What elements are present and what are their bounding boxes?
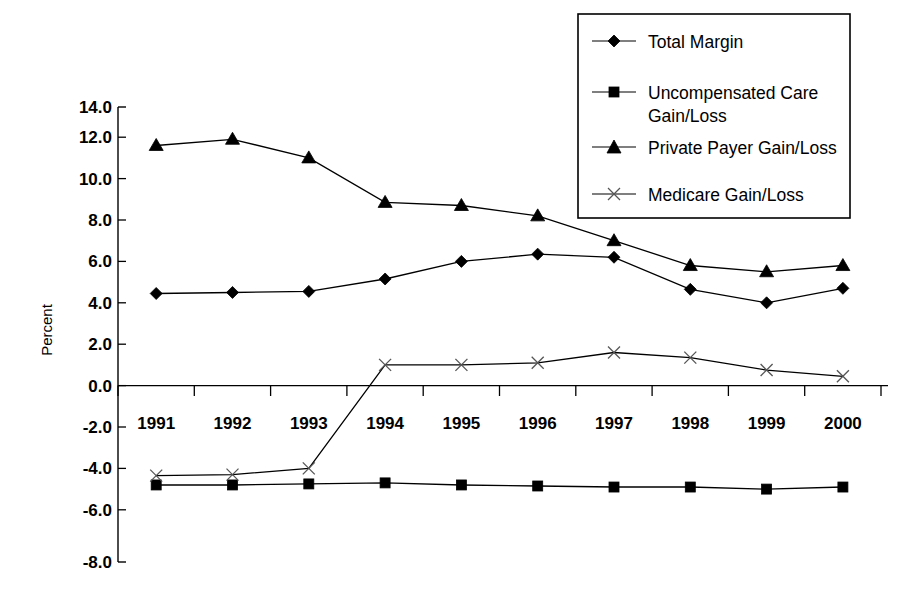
y-axis-tick-labels: 14.0 12.0 10.0 8.0 6.0 4.0 2.0 0.0 -2.0 … bbox=[79, 98, 112, 572]
legend-entry-medicare[interactable]: Medicare Gain/Loss bbox=[592, 185, 804, 205]
square-marker bbox=[228, 480, 238, 490]
diamond-marker bbox=[227, 286, 239, 298]
square-marker bbox=[685, 482, 695, 492]
y-tick-label: 12.0 bbox=[79, 128, 112, 147]
x-tick-label: 1997 bbox=[595, 414, 633, 433]
legend: Total Margin Uncompensated Care Gain/Los… bbox=[578, 14, 850, 218]
square-marker bbox=[838, 482, 848, 492]
legend-label: Medicare Gain/Loss bbox=[648, 185, 804, 205]
legend-entry-total-margin[interactable]: Total Margin bbox=[592, 32, 743, 52]
square-marker bbox=[762, 484, 772, 494]
legend-label: Private Payer Gain/Loss bbox=[648, 138, 837, 158]
square-marker bbox=[151, 480, 161, 490]
square-marker bbox=[609, 482, 619, 492]
legend-label-second-line: Gain/Loss bbox=[648, 106, 727, 126]
legend-entry-private-payer[interactable]: Private Payer Gain/Loss bbox=[592, 138, 837, 158]
chart-container: 14.0 12.0 10.0 8.0 6.0 4.0 2.0 0.0 -2.0 … bbox=[0, 0, 915, 609]
x-tick-label: 1994 bbox=[366, 414, 404, 433]
triangle-marker bbox=[454, 199, 468, 211]
diamond-marker bbox=[379, 273, 391, 285]
diamond-marker bbox=[837, 282, 849, 294]
x-tick-label: 1993 bbox=[290, 414, 328, 433]
square-marker bbox=[304, 479, 314, 489]
y-tick-label: 14.0 bbox=[79, 98, 112, 117]
square-marker-icon bbox=[609, 87, 619, 97]
y-tick-label: 4.0 bbox=[88, 294, 112, 313]
diamond-marker-icon bbox=[608, 35, 620, 47]
legend-entry-uncompensated-care[interactable]: Uncompensated Care Gain/Loss bbox=[592, 83, 818, 126]
y-tick-label: 8.0 bbox=[88, 211, 112, 230]
x-tick-label: 1996 bbox=[519, 414, 557, 433]
diamond-marker bbox=[455, 255, 467, 267]
legend-label: Uncompensated Care bbox=[648, 83, 818, 103]
diamond-marker bbox=[608, 251, 620, 263]
x-tick-label: 1995 bbox=[442, 414, 480, 433]
diamond-marker bbox=[684, 283, 696, 295]
triangle-marker bbox=[378, 195, 392, 207]
line-chart: 14.0 12.0 10.0 8.0 6.0 4.0 2.0 0.0 -2.0 … bbox=[0, 0, 915, 609]
diamond-marker bbox=[761, 297, 773, 309]
y-tick-label: -6.0 bbox=[83, 501, 112, 520]
y-axis-ticks bbox=[118, 137, 126, 510]
y-tick-label: 6.0 bbox=[88, 252, 112, 271]
y-tick-label: 10.0 bbox=[79, 170, 112, 189]
series-line bbox=[156, 353, 843, 476]
y-tick-label: -4.0 bbox=[83, 459, 112, 478]
x-tick-label: 2000 bbox=[824, 414, 862, 433]
y-tick-label: -8.0 bbox=[83, 553, 112, 572]
series-total-margin bbox=[150, 248, 849, 309]
y-tick-label: 0.0 bbox=[88, 377, 112, 396]
y-tick-label: -2.0 bbox=[83, 418, 112, 437]
square-marker bbox=[456, 480, 466, 490]
square-marker bbox=[533, 481, 543, 491]
series-line bbox=[156, 254, 843, 303]
x-axis-ticks bbox=[118, 386, 881, 396]
triangle-marker bbox=[836, 259, 850, 271]
x-tick-label: 1998 bbox=[671, 414, 709, 433]
diamond-marker bbox=[150, 287, 162, 299]
x-tick-label: 1991 bbox=[137, 414, 175, 433]
y-tick-label: 2.0 bbox=[88, 335, 112, 354]
diamond-marker bbox=[532, 248, 544, 260]
legend-label: Total Margin bbox=[648, 32, 743, 52]
series-line bbox=[156, 483, 843, 489]
diamond-marker bbox=[303, 285, 315, 297]
x-tick-label: 1999 bbox=[748, 414, 786, 433]
x-tick-label: 1992 bbox=[214, 414, 252, 433]
x-axis-tick-labels: 1991 1992 1993 1994 1995 1996 1997 1998 … bbox=[137, 414, 862, 433]
triangle-marker bbox=[226, 132, 240, 144]
series-line bbox=[156, 139, 843, 271]
series-uncompensated-care-gain-loss bbox=[151, 478, 848, 494]
y-axis-title: Percent bbox=[38, 303, 55, 356]
square-marker bbox=[380, 478, 390, 488]
series-medicare-gain-loss bbox=[150, 346, 849, 481]
